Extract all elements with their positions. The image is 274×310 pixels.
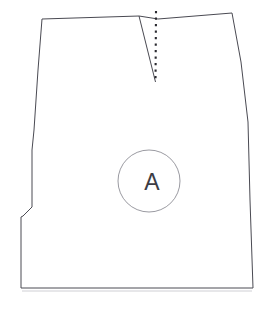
pattern-piece-svg: A	[0, 0, 274, 310]
piece-label-letter: A	[144, 169, 160, 195]
pattern-drawing-canvas: A	[0, 0, 274, 310]
piece-outline-shape	[21, 13, 253, 288]
